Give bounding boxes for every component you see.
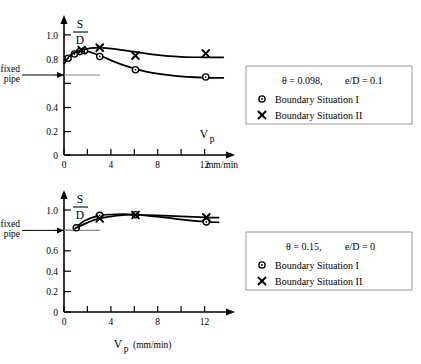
chart-svg-bottom: 1.0 0.6 0.4 0.2 0 0 4 8 12 S D V p (mm/m… bbox=[0, 182, 421, 364]
x-axis-arrowhead-bottom bbox=[226, 308, 235, 315]
chart-panel-top: 1.0 0.8 0.4 0.2 0 0 4 8 12 mm/min S D bbox=[0, 0, 421, 182]
x-axis-label-sub-bottom: p bbox=[124, 344, 129, 354]
y-ticklabel-0.4-top: 0.4 bbox=[46, 103, 58, 113]
legend-top: θ = 0.098, e/D = 0.1 Boundary Situation … bbox=[246, 66, 412, 124]
legend-condition-ed-bottom: e/D = 0 bbox=[345, 241, 375, 252]
legend-condition-ed-top: e/D = 0.1 bbox=[345, 75, 383, 86]
chart-panel-bottom: 1.0 0.6 0.4 0.2 0 0 4 8 12 S D V p (mm/m… bbox=[0, 182, 421, 364]
x-ticklabel-8-bottom: 8 bbox=[155, 317, 160, 327]
data-point-circle bbox=[97, 53, 103, 59]
data-point-circle bbox=[132, 67, 138, 73]
x-ticklabel-4-top: 4 bbox=[109, 160, 114, 170]
x-ticklabel-4-bottom: 4 bbox=[109, 317, 114, 327]
x-ticklabel-12-bottom: 12 bbox=[200, 317, 210, 327]
fixed-pipe-label-line1-top: fixed bbox=[0, 64, 20, 74]
legend-entry-cross-bottom: Boundary Situation II bbox=[275, 276, 362, 287]
fixed-pipe-arrowhead-bottom bbox=[57, 227, 64, 233]
fixed-pipe-label-line2-bottom: pipe bbox=[4, 229, 20, 239]
y-ticklabel-0-bottom: 0 bbox=[53, 308, 58, 318]
x-ticklabel-0-top: 0 bbox=[62, 160, 67, 170]
y-axis-label-numerator-bottom: S bbox=[77, 193, 83, 205]
x-ticklabel-8-top: 8 bbox=[155, 160, 160, 170]
y-ticklabel-0.4-bottom: 0.4 bbox=[46, 267, 58, 277]
fixed-pipe-arrowhead-top bbox=[57, 72, 64, 78]
x-axis-label-base-bottom: V bbox=[114, 338, 123, 350]
fixed-pipe-label-line1-bottom: fixed bbox=[0, 219, 20, 229]
figure-container: 1.0 0.8 0.4 0.2 0 0 4 8 12 mm/min S D bbox=[0, 0, 421, 364]
y-ticklabel-0.2-top: 0.2 bbox=[46, 127, 58, 137]
data-point-cross bbox=[202, 50, 209, 57]
plot-area-bottom bbox=[73, 212, 218, 231]
y-ticklabel-1.0-top: 1.0 bbox=[46, 31, 58, 41]
x-ticklabel-0-bottom: 0 bbox=[62, 317, 67, 327]
data-point-circle bbox=[203, 74, 209, 80]
y-axis-label-denominator-bottom: D bbox=[76, 209, 84, 221]
x-units-label-bottom: (mm/min) bbox=[133, 340, 172, 351]
y-axis-arrowhead-bottom bbox=[60, 190, 67, 199]
legend-marker-circle-dot-top bbox=[261, 98, 263, 100]
x-axis-label-base-top: V bbox=[200, 128, 209, 140]
y-axis-label-denominator-top: D bbox=[76, 34, 84, 46]
series-curve bbox=[64, 51, 223, 78]
x-axis-label-sub-top: p bbox=[210, 134, 215, 144]
chart-svg-top: 1.0 0.8 0.4 0.2 0 0 4 8 12 mm/min S D bbox=[0, 0, 421, 182]
legend-bottom: θ = 0.15, e/D = 0 Boundary Situation I B… bbox=[246, 232, 412, 290]
y-ticklabel-0.8-top: 0.8 bbox=[46, 55, 58, 65]
x-axis-arrowhead-top bbox=[226, 151, 235, 158]
x-units-label-top: mm/min bbox=[206, 160, 238, 170]
y-ticklabel-0.2-bottom: 0.2 bbox=[46, 287, 58, 297]
legend-entry-cross-top: Boundary Situation II bbox=[275, 110, 362, 121]
legend-entry-circle-top: Boundary Situation I bbox=[275, 94, 359, 105]
data-point-cross bbox=[132, 52, 139, 59]
legend-condition-theta-bottom: θ = 0.15, bbox=[286, 241, 321, 252]
legend-entry-circle-bottom: Boundary Situation I bbox=[275, 260, 359, 271]
y-axis-arrowhead-top bbox=[60, 15, 67, 24]
legend-condition-theta-top: θ = 0.098, bbox=[282, 75, 322, 86]
y-ticklabel-0.6-bottom: 0.6 bbox=[46, 246, 58, 256]
y-axis-label-numerator-top: S bbox=[77, 18, 83, 30]
y-ticklabel-1.0-bottom: 1.0 bbox=[46, 206, 58, 216]
legend-marker-circle-dot-bottom bbox=[261, 264, 263, 266]
y-ticklabel-0-top: 0 bbox=[53, 151, 58, 161]
fixed-pipe-label-line2-top: pipe bbox=[4, 74, 20, 84]
